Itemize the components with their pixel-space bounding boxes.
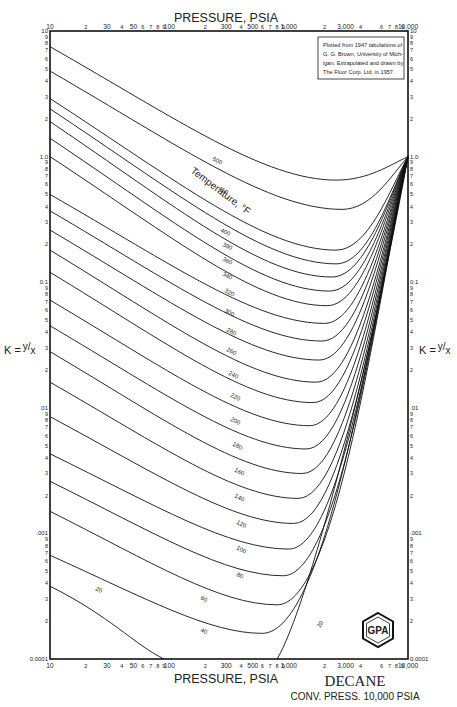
bottom-x-tick-label: 1,000 — [280, 662, 297, 669]
bottom-x-tick-label: 7 — [269, 663, 272, 669]
curve-label: 200 — [230, 416, 242, 426]
temperature-curve-120 — [50, 157, 408, 524]
right-y-tick-label: 6 — [410, 181, 413, 187]
bottom-x-tick-label: 3,000 — [337, 662, 354, 669]
svg-text:K =y/x: K =y/x — [4, 341, 36, 356]
note-line-3: igan. Extrapolated and drawn by — [323, 60, 403, 66]
left-y-tick-label: 5 — [45, 191, 48, 197]
right-y-tick-label: 3 — [410, 470, 413, 476]
top-x-tick-label: 500 — [247, 23, 258, 30]
left-y-tick-label: 5 — [45, 66, 48, 72]
right-y-tick-label: 2 — [410, 493, 413, 499]
right-y-tick-label: 4 — [410, 580, 413, 586]
right-y-tick-label: 6 — [410, 558, 413, 564]
right-y-tick-label: 2 — [410, 241, 413, 247]
top-x-tick-label: 4 — [359, 24, 362, 30]
curve-label: 160 — [234, 467, 246, 477]
top-x-tick-label: 2 — [204, 24, 207, 30]
svg-text:K =y/x: K =y/x — [419, 341, 451, 356]
right-y-tick-label: 9 — [410, 285, 413, 291]
top-x-tick-label: 8 — [276, 24, 279, 30]
left-y-tick-label: 6 — [45, 307, 48, 313]
left-y-tick-label: 7 — [45, 47, 48, 53]
top-x-tick-label: 2 — [323, 24, 326, 30]
k-value-chart: PRESSURE, PSIA PRESSURE, PSIA DECANE CON… — [0, 0, 457, 707]
right-y-tick-label: 4 — [410, 329, 413, 335]
right-y-tick-label: 8 — [410, 543, 413, 549]
temperature-curve-300 — [50, 157, 408, 324]
svg-text:GPA: GPA — [368, 625, 389, 636]
top-x-tick-label: 7 — [149, 24, 152, 30]
curve-label: 20 — [316, 619, 325, 628]
note-line-2: G. G. Brown, University of Mich- — [323, 51, 403, 57]
source-note-box: Plotted from 1947 tabulations of G. G. B… — [318, 37, 404, 79]
right-y-tick-label: 3 — [410, 219, 413, 225]
left-y-tick-label: 9 — [45, 34, 48, 40]
bottom-x-tick-label: 30 — [103, 662, 111, 669]
right-y-tick-label: 0.0001 — [410, 656, 429, 662]
top-x-tick-label: 50 — [130, 23, 138, 30]
bottom-x-tick-label: 2 — [84, 663, 87, 669]
left-y-tick-label: 9 — [45, 536, 48, 542]
left-y-tick-label: 7 — [45, 299, 48, 305]
note-line-1: Plotted from 1947 tabulations of — [323, 42, 402, 48]
top-x-tick-label: 2 — [84, 24, 87, 30]
right-y-tick-label: 8 — [410, 417, 413, 423]
right-y-tick-label: 6 — [410, 307, 413, 313]
note-line-4: The Fluor Corp. Ltd. in 1957. — [323, 69, 395, 75]
curve-label: 20 — [95, 586, 104, 595]
right-y-tick-label: 9 — [410, 34, 413, 40]
component-name: DECANE — [325, 673, 386, 689]
bottom-x-tick-label: 6 — [380, 663, 383, 669]
curve-label: 40 — [200, 627, 209, 636]
left-y-tick-label: 4 — [45, 580, 48, 586]
bottom-x-tick-label: 8 — [156, 663, 159, 669]
curve-label: 180 — [232, 441, 244, 451]
left-y-tick-label: 7 — [45, 424, 48, 430]
left-y-tick-label: 6 — [45, 558, 48, 564]
right-y-tick-label: 7 — [410, 424, 413, 430]
right-y-tick-label: 5 — [410, 66, 413, 72]
bottom-x-tick-label: 10,000 — [398, 662, 419, 669]
bottom-x-tick-label: 300 — [221, 662, 232, 669]
left-y-tick-label: 2 — [45, 367, 48, 373]
top-x-tick-label: 4 — [240, 24, 243, 30]
curve-label: 260 — [226, 346, 238, 356]
right-y-tick-label: 7 — [410, 550, 413, 556]
bottom-x-tick-label: 6 — [261, 663, 264, 669]
top-x-tick-label: 100 — [164, 23, 175, 30]
bottom-x-tick-label: 2 — [204, 663, 207, 669]
bottom-x-tick-label: 4 — [120, 663, 123, 669]
curve-label: 120 — [236, 519, 248, 529]
left-y-tick-label: 8 — [45, 40, 48, 46]
right-k-label: K =y/x — [419, 341, 451, 356]
temperature-curves: 5004504003803603403203002802602402202001… — [50, 47, 408, 659]
right-y-tick-label: 5 — [410, 191, 413, 197]
right-y-tick-label: 2 — [410, 618, 413, 624]
left-y-tick-label: 3 — [45, 345, 48, 351]
gpa-logo: GPA — [363, 613, 393, 647]
left-y-tick-label: 2 — [45, 618, 48, 624]
curve-label: 220 — [230, 392, 242, 402]
temperature-curve-80 — [50, 157, 408, 576]
left-y-tick-label: 9 — [45, 285, 48, 291]
right-y-tick-label: 4 — [410, 455, 413, 461]
bottom-x-tick-label: 4 — [240, 663, 243, 669]
left-y-tick-label: 8 — [45, 291, 48, 297]
left-y-tick-label: 4 — [45, 78, 48, 84]
plot-frame — [50, 31, 408, 659]
left-y-tick-label: 3 — [45, 596, 48, 602]
left-y-tick-label: 5 — [45, 443, 48, 449]
temperature-curve-380 — [50, 109, 408, 264]
right-y-tick-label: 7 — [410, 173, 413, 179]
right-y-tick-label: 5 — [410, 317, 413, 323]
bottom-x-tick-label: 500 — [247, 662, 258, 669]
right-y-tick-label: 7 — [410, 299, 413, 305]
temperature-curve-340 — [50, 138, 408, 291]
right-y-tick-label: 3 — [410, 94, 413, 100]
left-y-tick-label: 7 — [45, 173, 48, 179]
top-x-tick-label: 8 — [156, 24, 159, 30]
temperature-curve-450 — [50, 71, 408, 209]
left-y-tick-label: 6 — [45, 56, 48, 62]
curve-label: 100 — [236, 545, 248, 555]
